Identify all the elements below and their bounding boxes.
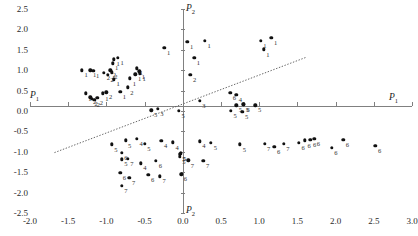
data-point-label: 2 (130, 88, 133, 95)
x-tick-label: 0.0 (177, 216, 188, 226)
data-point (120, 151, 123, 154)
data-point (84, 92, 87, 95)
data-point (118, 90, 121, 93)
data-point-label: 1 (167, 48, 170, 55)
data-point-label: 1 (197, 59, 200, 66)
data-point-label: 7 (206, 161, 209, 168)
x-tick (374, 102, 375, 106)
data-point (147, 173, 150, 176)
y-tick (181, 193, 185, 194)
y-tick-label: 1.5 (0, 45, 28, 55)
y-tick (181, 213, 185, 214)
data-point (126, 86, 129, 89)
x-tick (336, 102, 337, 106)
data-point-label: 4 (239, 95, 242, 102)
y-tick (181, 91, 185, 92)
data-point-label: 5 (128, 141, 131, 148)
data-point (259, 39, 262, 42)
data-point (203, 39, 206, 42)
data-point (96, 96, 99, 99)
data-point (263, 142, 266, 145)
data-point-label: 5 (246, 105, 249, 112)
data-point (139, 162, 142, 165)
data-point-label: 1 (133, 79, 136, 86)
data-point (124, 139, 127, 142)
y-tick (181, 131, 185, 132)
data-point (273, 145, 276, 148)
axis-label-p2-bottom: P2 (186, 205, 195, 217)
y-tick-label: -0.5 (0, 126, 28, 136)
data-point-label: 6 (346, 140, 349, 147)
x-tick (106, 102, 107, 106)
y-tick-label: -1.0 (0, 147, 28, 157)
x-tick (412, 102, 413, 106)
x-tick-label: 0.5 (215, 216, 226, 226)
data-point-label: 4 (175, 143, 178, 150)
data-point-label: 7 (267, 144, 270, 151)
data-point (112, 77, 115, 80)
data-point-label: 5 (245, 113, 248, 120)
data-point-label: 1 (138, 75, 141, 82)
data-point (110, 143, 113, 146)
data-point (111, 62, 114, 65)
data-point-label: 3 (202, 102, 205, 109)
x-tick (145, 102, 146, 106)
data-point-label: 2 (100, 98, 103, 105)
data-point (177, 109, 180, 112)
data-point (342, 138, 345, 141)
data-point-label: 5 (234, 112, 237, 119)
data-point (128, 77, 131, 80)
data-point-label: 5 (258, 106, 261, 113)
x-tick-label: 1.5 (292, 216, 303, 226)
data-point-label: 5 (147, 144, 150, 151)
y-tick (181, 70, 185, 71)
data-point-label: 6 (378, 147, 381, 154)
data-point-label: 5 (182, 112, 185, 119)
x-tick (30, 102, 31, 106)
data-point-label: 1 (117, 80, 120, 87)
data-point-label: 6 (317, 139, 320, 146)
data-point (228, 91, 231, 94)
data-point-label: 4 (202, 142, 205, 149)
data-point-label: 5 (114, 145, 117, 152)
data-point-label: 7 (162, 177, 165, 184)
data-point-label: 2 (193, 76, 196, 83)
y-tick-label: 1.0 (0, 65, 28, 75)
axis-label-p1-right: P1 (389, 92, 398, 104)
data-point (156, 107, 159, 110)
data-point (80, 68, 83, 71)
data-point-label: 6 (334, 148, 337, 155)
data-point-label: 2 (109, 93, 112, 100)
data-point-label: 1 (143, 74, 146, 81)
data-point (120, 157, 123, 160)
data-point-label: 5 (182, 157, 185, 164)
data-point-label: 1 (123, 93, 126, 100)
x-tick-label: 3.0 (406, 216, 417, 226)
data-point (235, 93, 238, 96)
data-point (120, 184, 123, 187)
data-point-label: 1 (117, 60, 120, 67)
data-point (262, 48, 265, 51)
data-point-label: 6 (151, 175, 154, 182)
data-point (229, 109, 232, 112)
x-tick-label: 2.5 (368, 216, 379, 226)
data-point-label: 1 (274, 39, 277, 46)
data-point-label: 3 (160, 110, 163, 117)
y-tick-label: 2.0 (0, 24, 28, 34)
data-point-label: 5 (154, 111, 157, 118)
data-point-label: 6 (159, 161, 162, 168)
data-point-label: 1 (266, 50, 269, 57)
axis-label-p2-top: P2 (186, 3, 195, 15)
data-point (198, 139, 201, 142)
y-tick-label: -2.0 (0, 188, 28, 198)
data-point-label: 5 (124, 160, 127, 167)
data-point-label: 1 (120, 59, 123, 66)
x-tick (297, 102, 298, 106)
data-point-label: 6 (313, 140, 316, 147)
data-point (193, 56, 196, 59)
x-tick (221, 102, 222, 106)
data-point-label: 1 (105, 94, 108, 101)
y-tick (181, 29, 185, 30)
